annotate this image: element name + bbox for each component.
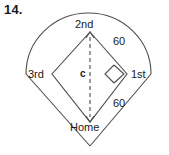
label-side-length-lower: 60 bbox=[113, 98, 125, 109]
figure-screenshot: 14. 2nd 60 1st 3rd c 60 Home bbox=[0, 0, 169, 155]
label-side-length-upper: 60 bbox=[113, 36, 125, 47]
label-center-segment: c bbox=[80, 69, 86, 79]
right-angle-marker-icon-back bbox=[105, 65, 114, 83]
label-third-base: 3rd bbox=[28, 69, 44, 80]
label-second-base: 2nd bbox=[75, 19, 93, 30]
label-first-base: 1st bbox=[131, 69, 146, 80]
label-home-plate: Home bbox=[70, 122, 99, 133]
